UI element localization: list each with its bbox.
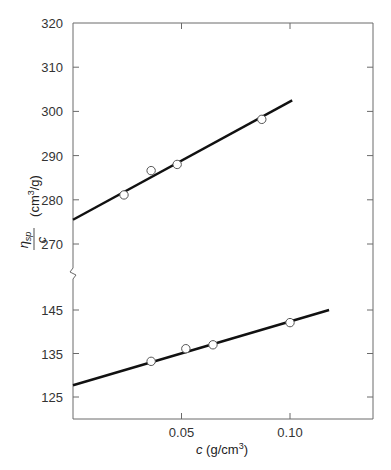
axis-break-icon (70, 268, 76, 279)
data-point-upper (120, 191, 128, 199)
data-point-upper (173, 160, 181, 168)
plot-frame (70, 23, 373, 419)
y-tick-label-upper: 290 (41, 149, 63, 164)
y-axis-unit-post: /g) (27, 175, 42, 190)
x-tick-label: 0.05 (169, 425, 194, 440)
x-axis-unit: (g/cm (203, 442, 239, 457)
y-axis-eta: η (16, 241, 31, 248)
data-point-lower (209, 341, 217, 349)
chart: 2702802903003103201251351450.050.10 c (g… (0, 0, 391, 470)
fit-lines (73, 100, 329, 385)
axis-ticks: 2702802903003103201251351450.050.10 (41, 16, 373, 440)
data-point-lower (182, 345, 190, 353)
y-axis-unit-pre: (cm (27, 195, 42, 217)
y-tick-label-upper: 310 (41, 60, 63, 75)
y-axis-denominator: c (34, 236, 49, 243)
y-tick-label-lower: 125 (41, 390, 63, 405)
y-axis-unit: (cm3/g) (26, 175, 42, 217)
data-point-lower (286, 318, 294, 326)
y-axis-label: ηsp c (cm3/g) (16, 175, 49, 250)
y-tick-label-lower: 135 (41, 347, 63, 362)
x-tick-label: 0.10 (277, 425, 302, 440)
data-point-upper (258, 115, 266, 123)
x-axis-label: c (g/cm3) (196, 441, 248, 457)
y-tick-label-lower: 145 (41, 303, 63, 318)
y-tick-label-upper: 300 (41, 104, 63, 119)
data-point-upper (147, 166, 155, 174)
y-axis-sub: sp (23, 232, 33, 242)
y-tick-label-upper: 320 (41, 16, 63, 31)
y-tick-label-upper: 280 (41, 193, 63, 208)
x-axis-unit-close: ) (244, 442, 248, 457)
y-axis-numerator: ηsp (16, 232, 33, 249)
data-point-lower (147, 357, 155, 365)
